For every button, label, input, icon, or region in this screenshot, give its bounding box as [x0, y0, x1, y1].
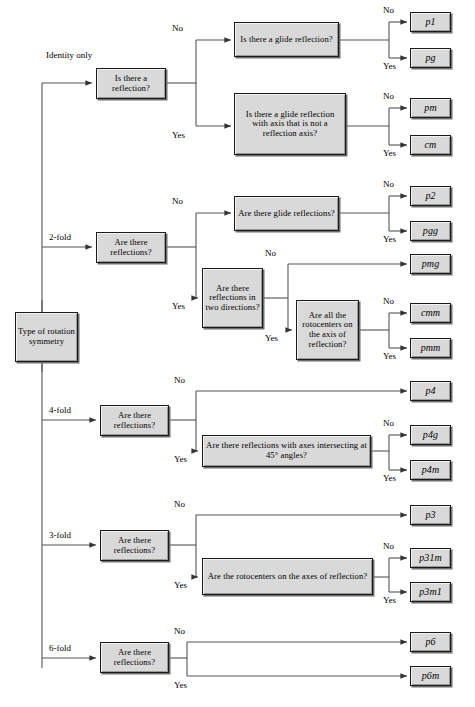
terminal-pg[interactable]: pg: [410, 48, 451, 68]
decision-all-rotocenters-on-axis-of-reflection[interactable]: Are all the rotocenters on the axis of r…: [296, 300, 359, 360]
edge-label-no-6fold-reflections: No: [174, 627, 185, 637]
edge-label-no-glide-reflections: No: [383, 180, 394, 190]
terminal-p31m[interactable]: p31m: [410, 548, 451, 568]
terminal-p3m1[interactable]: p3m1: [410, 582, 451, 602]
branch-label-3-fold: 3-fold: [49, 531, 71, 541]
terminal-cm[interactable]: cm: [410, 135, 451, 155]
decision-are-there-reflections-2fold[interactable]: Are there reflections?: [96, 232, 166, 263]
terminal-p3[interactable]: p3: [410, 505, 451, 525]
terminal-pgg[interactable]: pgg: [410, 221, 451, 241]
decision-are-there-reflections-3fold[interactable]: Are there reflections?: [100, 530, 169, 561]
terminal-pmm[interactable]: pmm: [410, 338, 451, 358]
decision-are-there-reflections-4fold[interactable]: Are there reflections?: [100, 405, 169, 436]
edge-label-no-rotocenters-axes: No: [383, 542, 394, 552]
edge-label-yes-rotocenters-axes: Yes: [383, 596, 396, 606]
decision-are-there-glide-reflections[interactable]: Are there glide reflections?: [234, 196, 339, 231]
decision-reflections-in-two-directions[interactable]: Are there reflections in two directions?: [202, 268, 263, 328]
edge-label-yes-4fold-reflections: Yes: [174, 455, 187, 465]
terminal-pm[interactable]: pm: [410, 98, 451, 118]
edge-label-yes-glide-axis: Yes: [383, 149, 396, 159]
decision-rotocenters-on-axes-of-reflection[interactable]: Are the rotocenters on the axes of refle…: [202, 558, 373, 595]
edge-label-yes-identity-reflection: Yes: [172, 131, 185, 141]
edge-label-yes-two-directions: Yes: [265, 334, 278, 344]
terminal-p6m[interactable]: p6m: [410, 666, 451, 686]
terminal-p2[interactable]: p2: [410, 186, 451, 206]
branch-label-identity: Identity only: [46, 50, 90, 60]
terminal-p6[interactable]: p6: [410, 632, 451, 652]
edge-label-no-identity-reflection: No: [172, 24, 183, 34]
edge-label-yes-45-degrees: Yes: [383, 474, 396, 484]
terminal-p1[interactable]: p1: [410, 12, 451, 32]
edge-label-yes-2fold-reflections: Yes: [172, 302, 185, 312]
edge-label-no-45-degrees: No: [383, 419, 394, 429]
branch-label-4-fold: 4-fold: [49, 406, 71, 416]
decision-is-there-a-glide-reflection[interactable]: Is there a glide reflection?: [234, 22, 339, 57]
edge-label-no-rotocenters-axis: No: [383, 297, 394, 307]
terminal-p4[interactable]: p4: [410, 381, 451, 401]
edge-label-no-2fold-reflections: No: [172, 197, 183, 207]
edge-label-no-3fold-reflections: No: [174, 500, 185, 510]
terminal-p4m[interactable]: p4m: [410, 460, 451, 480]
edge-label-yes-rotocenters-axis: Yes: [383, 352, 396, 362]
decision-is-there-a-reflection-identity[interactable]: Is there a reflection?: [96, 68, 166, 99]
edge-label-no-4fold-reflections: No: [174, 376, 185, 386]
edge-label-no-glide: No: [383, 6, 394, 16]
edge-label-yes-glide-reflections: Yes: [383, 235, 396, 245]
decision-reflections-axes-45-degree-angles[interactable]: Are there reflections with axes intersec…: [202, 435, 371, 467]
terminal-p4g[interactable]: p4g: [410, 425, 451, 445]
branch-label-6-fold: 6-fold: [49, 644, 71, 654]
branch-label-2-fold: 2-fold: [49, 233, 71, 243]
edge-label-no-two-directions: No: [265, 249, 276, 259]
edge-label-yes-6fold-reflections: Yes: [174, 681, 187, 691]
flowchart-canvas: Type of rotation symmetry Identity only …: [0, 0, 475, 707]
terminal-cmm[interactable]: cmm: [410, 303, 451, 323]
edge-label-no-glide-axis: No: [383, 92, 394, 102]
terminal-pmg[interactable]: pmg: [410, 254, 451, 274]
edge-label-yes-glide: Yes: [383, 62, 396, 72]
decision-are-there-reflections-6fold[interactable]: Are there reflections?: [100, 642, 169, 673]
decision-glide-reflection-axis-not-reflection-axis[interactable]: Is there a glide reflection with axis th…: [234, 93, 346, 155]
root-node-rotation-symmetry[interactable]: Type of rotation symmetry: [15, 312, 78, 362]
edge-label-yes-3fold-reflections: Yes: [174, 581, 187, 591]
